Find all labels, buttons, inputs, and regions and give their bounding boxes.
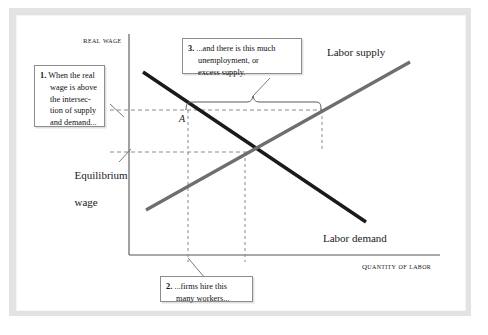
equilibrium-wage-line-1: Equilibrium [75, 169, 128, 181]
callout-1-line-4: tion of supply [40, 105, 99, 117]
callout-1-text-1: When the real [48, 71, 95, 80]
callout-1-number: 1. [40, 71, 46, 80]
callout-2-text-1: ...firms hire this [174, 282, 227, 291]
labor-demand-label: Labor demand [323, 232, 387, 245]
callout-3-line-2: unemployment, or [188, 55, 296, 67]
callout-3-line-1: 3. ...and there is this much [188, 43, 296, 55]
equilibrium-wage-label: Equilibrium wage [58, 155, 128, 224]
point-a-label: A [179, 113, 185, 125]
callout-1-line-3: the intersec- [40, 94, 99, 106]
labor-supply-label: Labor supply [327, 46, 385, 59]
callout-2-leader-line [188, 258, 205, 278]
callout-2-line-2: many workers... [166, 293, 247, 305]
callout-2-line-1: 2. ...firms hire this [166, 281, 247, 293]
callout-3-line-3: excess supply. [188, 67, 296, 79]
callout-3-number: 3. [188, 44, 194, 53]
x-axis-label: Quantity of labor [362, 260, 431, 272]
callout-1: 1. When the real wage is above the inter… [34, 65, 105, 127]
plot-area: Real wage Quantity of labor Labor supply… [0, 0, 488, 335]
callout-3-leader-line [253, 78, 270, 96]
callout-3-text-1: ...and there is this much [196, 44, 275, 53]
unemployment-brace [186, 96, 321, 110]
callout-2-number: 2. [166, 282, 172, 291]
equilibrium-wage-line-2: wage [75, 196, 98, 208]
callout-1-line-5: and demand... [40, 117, 99, 129]
callout-3: 3. ...and there is this much unemploymen… [182, 38, 302, 74]
figure-root: Real wage Quantity of labor Labor supply… [0, 0, 488, 335]
labor-supply-curve [146, 62, 410, 210]
callout-1-line-2: wage is above [40, 82, 99, 94]
callout-1-line-1: 1. When the real [40, 70, 99, 82]
callout-2: 2. ...firms hire this many workers... [160, 276, 253, 302]
y-axis-label: Real wage [83, 34, 122, 46]
